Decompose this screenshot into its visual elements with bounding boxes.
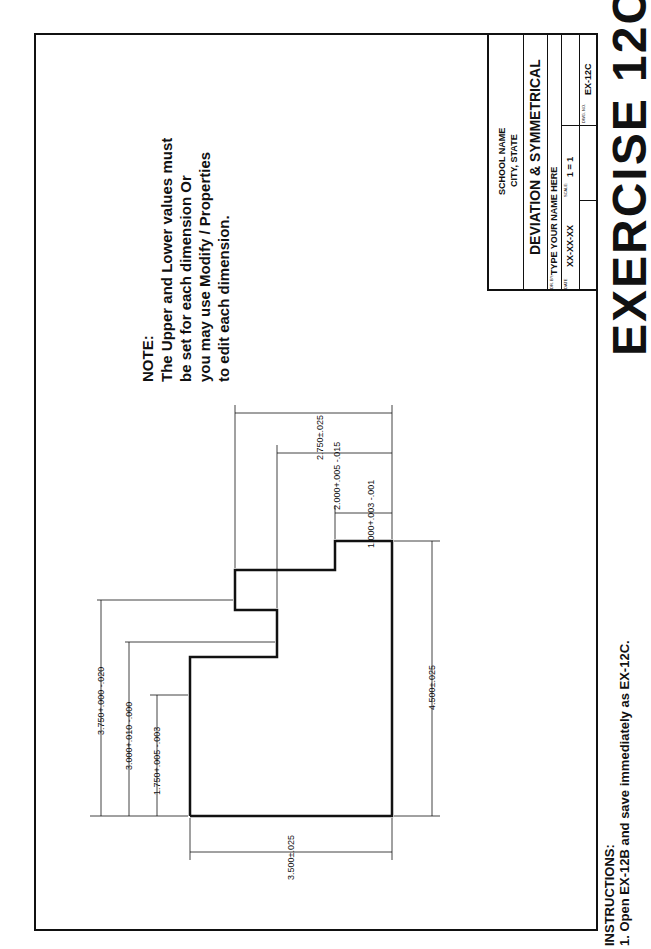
instructions-step: 1. Open EX-12B and save immediately as E… bbox=[617, 640, 632, 946]
dimension-label: 3.000+.010 -.000 bbox=[124, 702, 134, 770]
instructions: INSTRUCTIONS: 1. Open EX-12B and save im… bbox=[602, 640, 632, 946]
dimension-label: 3.750+.000 -.020 bbox=[96, 667, 106, 735]
dimension-label: 4.500±.025 bbox=[427, 665, 437, 710]
dimension-label: 1.000+.003 -.001 bbox=[366, 480, 376, 548]
dimension-label: 1.750+.005 -.003 bbox=[152, 727, 162, 795]
dimension-label: 2.750±.025 bbox=[315, 415, 325, 460]
instructions-heading: INSTRUCTIONS: bbox=[602, 640, 617, 946]
dimension-label: 3.500±.025 bbox=[286, 835, 296, 880]
dimension-label: 2.000+.005 -.015 bbox=[332, 442, 342, 510]
